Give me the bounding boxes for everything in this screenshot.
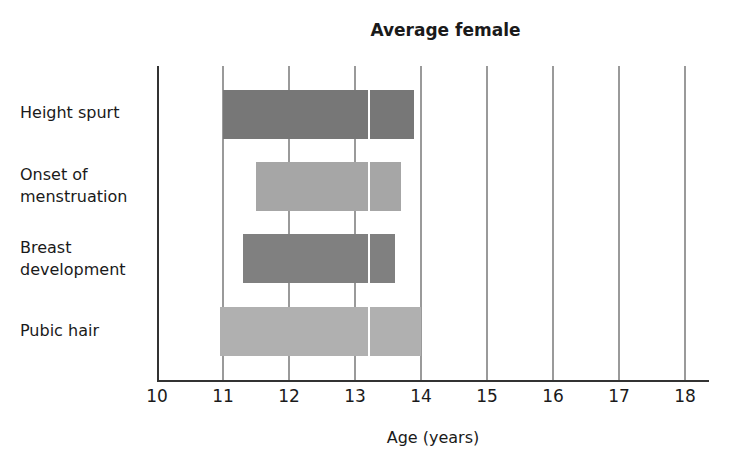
bar-marker — [368, 162, 370, 211]
category-label-pubic-hair: Pubic hair — [20, 320, 99, 342]
bar-marker — [368, 90, 370, 139]
category-label-breast: Breastdevelopment — [20, 237, 126, 281]
x-tick-label: 18 — [674, 386, 696, 406]
x-tick-label: 12 — [278, 386, 300, 406]
y-axis — [157, 66, 159, 381]
x-tick-label: 11 — [212, 386, 234, 406]
category-label-menstruation: Onset ofmenstruation — [20, 164, 127, 208]
gridline — [618, 66, 620, 380]
bar-breast-development — [243, 234, 395, 283]
x-tick-label: 15 — [476, 386, 498, 406]
bar-marker — [368, 307, 370, 356]
bar-marker — [368, 234, 370, 283]
x-axis — [157, 380, 709, 382]
x-tick-label: 13 — [344, 386, 366, 406]
chart-title: Average female — [0, 20, 741, 40]
x-tick-label: 17 — [608, 386, 630, 406]
gridline — [486, 66, 488, 380]
chart-container: Average female Height spurt Onset ofmens… — [0, 0, 741, 466]
x-axis-label: Age (years) — [157, 428, 709, 447]
bar-height-spurt — [223, 90, 414, 139]
x-tick-label: 14 — [410, 386, 432, 406]
bar-onset-of-menstruation — [256, 162, 401, 211]
gridline — [684, 66, 686, 380]
gridline — [552, 66, 554, 380]
x-tick-label: 10 — [146, 386, 168, 406]
category-label-height-spurt: Height spurt — [20, 102, 119, 124]
bar-pubic-hair — [220, 307, 421, 356]
x-tick-label: 16 — [542, 386, 564, 406]
